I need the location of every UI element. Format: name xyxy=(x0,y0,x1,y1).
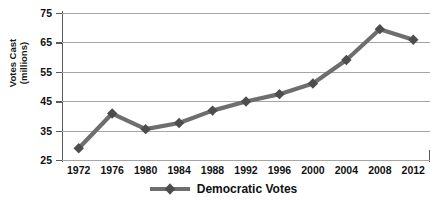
y-tick-label-55: 55 xyxy=(18,66,52,78)
gridline-25 xyxy=(62,160,430,161)
gridline-45 xyxy=(62,101,430,102)
line-chart: Votes Cast (millions) 253545556575 19721… xyxy=(0,0,445,206)
plot-area xyxy=(62,13,430,160)
gridline-55 xyxy=(62,72,430,73)
x-tick-label-2012: 2012 xyxy=(391,164,435,176)
y-tick-label-75: 75 xyxy=(18,7,52,19)
y-tick-label-45: 45 xyxy=(18,95,52,107)
y-tick-label-25: 25 xyxy=(18,154,52,166)
y-tick-label-35: 35 xyxy=(18,125,52,137)
legend-label-democratic-votes: Democratic Votes xyxy=(197,182,297,196)
gridline-75 xyxy=(62,13,430,14)
gridline-35 xyxy=(62,131,430,132)
gridline-65 xyxy=(62,42,430,43)
chart-legend: Democratic Votes xyxy=(0,182,445,196)
y-axis-title-line-1: Votes Cast xyxy=(7,9,18,117)
y-tick-label-65: 65 xyxy=(18,36,52,48)
legend-marker-democratic-votes xyxy=(148,182,192,196)
